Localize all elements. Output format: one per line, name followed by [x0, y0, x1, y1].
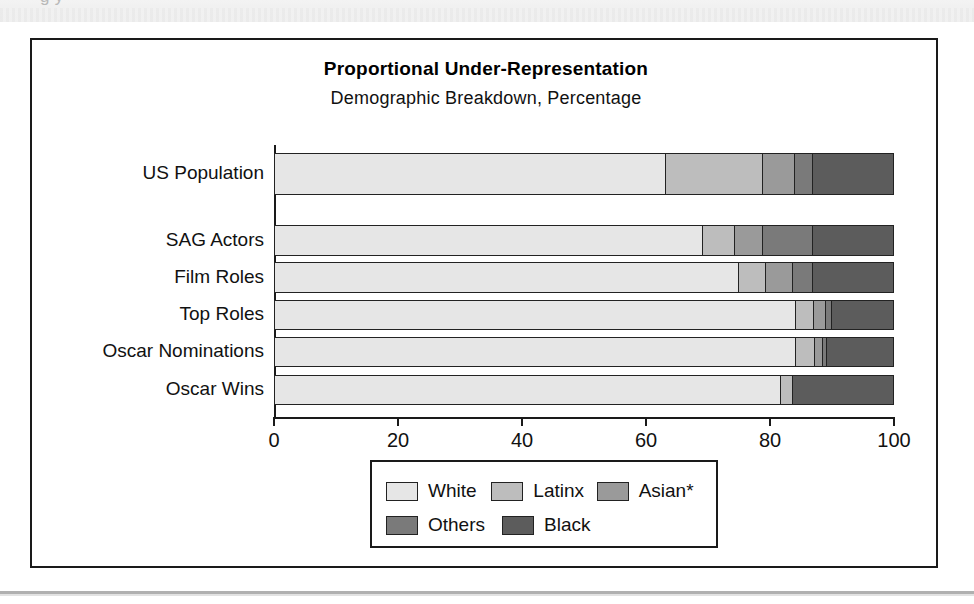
bar-segment-latinx[interactable]	[739, 263, 766, 292]
chart-subtitle: Demographic Breakdown, Percentage	[32, 88, 940, 109]
bar-segment-latinx[interactable]	[781, 376, 794, 404]
stacked-bar[interactable]	[274, 300, 894, 330]
legend-swatch-icon	[386, 516, 418, 535]
bar-segment-others[interactable]	[795, 154, 813, 194]
legend-swatch-icon	[386, 482, 418, 501]
bar-segment-black[interactable]	[832, 301, 893, 329]
x-axis-line	[274, 417, 894, 419]
bar-segment-black[interactable]	[813, 263, 893, 292]
legend-item-white[interactable]: White	[386, 480, 491, 502]
x-axis-tick-label: 40	[511, 429, 533, 452]
bar-row	[274, 337, 894, 367]
category-label: Film Roles	[174, 266, 264, 288]
bar-segment-white[interactable]	[275, 263, 739, 292]
bar-row	[274, 225, 894, 256]
bar-segment-asian[interactable]	[815, 338, 823, 366]
bar-segment-asian[interactable]	[763, 154, 795, 194]
bar-segment-asian[interactable]	[814, 301, 826, 329]
bar-segment-asian[interactable]	[766, 263, 794, 292]
bar-segment-white[interactable]	[275, 338, 796, 366]
stacked-bar[interactable]	[274, 262, 894, 293]
page-bottom-rule	[0, 591, 974, 594]
plot-area: 020406080100	[274, 145, 894, 417]
bar-segment-black[interactable]	[793, 376, 892, 404]
bar-segment-white[interactable]	[275, 301, 796, 329]
x-axis-tick-label: 0	[268, 429, 279, 452]
legend-label: Asian*	[639, 480, 694, 502]
legend-item-black[interactable]: Black	[502, 514, 618, 536]
bar-segment-black[interactable]	[813, 226, 893, 255]
bar-segment-white[interactable]	[275, 376, 781, 404]
legend-swatch-icon	[502, 516, 534, 535]
category-label: Top Roles	[180, 303, 265, 325]
chart-title: Proportional Under-Representation	[32, 58, 940, 80]
legend-label: Latinx	[533, 480, 584, 502]
stacked-bar[interactable]	[274, 375, 894, 405]
bar-row	[274, 300, 894, 330]
x-axis-tick	[645, 417, 647, 426]
bar-segment-latinx[interactable]	[666, 154, 763, 194]
category-axis-labels: US PopulationSAG ActorsFilm RolesTop Rol…	[22, 145, 274, 417]
bar-row	[274, 262, 894, 293]
stacked-bar[interactable]	[274, 225, 894, 256]
x-axis-tick	[521, 417, 523, 426]
x-axis-tick	[273, 417, 275, 426]
x-axis-tick-label: 60	[635, 429, 657, 452]
legend-row: OthersBlack	[386, 508, 702, 542]
x-axis-tick	[397, 417, 399, 426]
category-label: SAG Actors	[166, 229, 264, 251]
legend-swatch-icon	[597, 482, 629, 501]
bar-segment-others[interactable]	[763, 226, 813, 255]
x-axis-tick	[769, 417, 771, 426]
bar-segment-white[interactable]	[275, 154, 666, 194]
bar-segment-black[interactable]	[827, 338, 893, 366]
legend-label: Others	[428, 514, 485, 536]
legend-row: WhiteLatinxAsian*	[386, 474, 702, 508]
scanned-page-artifact: g y	[0, 0, 974, 22]
legend-label: Black	[544, 514, 590, 536]
category-label: US Population	[143, 162, 264, 184]
bar-segment-latinx[interactable]	[703, 226, 735, 255]
scan-noise-band	[0, 8, 974, 22]
x-axis-tick-label: 100	[877, 429, 910, 452]
bar-row	[274, 153, 894, 195]
x-axis-tick-label: 80	[759, 429, 781, 452]
x-axis-tick	[893, 417, 895, 426]
legend-item-latinx[interactable]: Latinx	[491, 480, 596, 502]
bar-segment-black[interactable]	[813, 154, 893, 194]
category-label: Oscar Nominations	[102, 340, 264, 362]
x-axis-tick-label: 20	[387, 429, 409, 452]
bar-segment-asian[interactable]	[735, 226, 763, 255]
legend-item-others[interactable]: Others	[386, 514, 502, 536]
chart-legend: WhiteLatinxAsian*OthersBlack	[370, 460, 718, 548]
chart-figure: Proportional Under-Representation Demogr…	[30, 38, 938, 568]
stacked-bar[interactable]	[274, 337, 894, 367]
bar-segment-others[interactable]	[793, 263, 812, 292]
legend-item-asian[interactable]: Asian*	[597, 480, 702, 502]
legend-label: White	[428, 480, 477, 502]
category-label: Oscar Wins	[166, 378, 264, 400]
stacked-bar[interactable]	[274, 153, 894, 195]
bar-row	[274, 375, 894, 405]
scan-ghost-text: g y	[40, 0, 64, 7]
bar-segment-latinx[interactable]	[796, 338, 815, 366]
bar-segment-latinx[interactable]	[796, 301, 814, 329]
legend-swatch-icon	[491, 482, 523, 501]
bar-segment-white[interactable]	[275, 226, 703, 255]
